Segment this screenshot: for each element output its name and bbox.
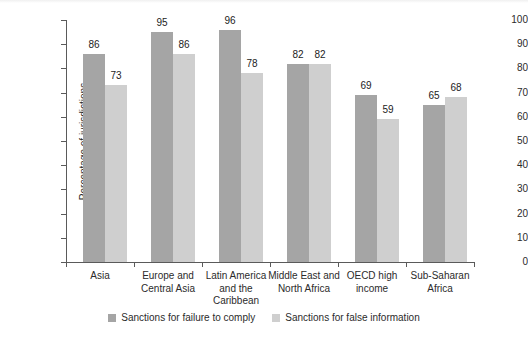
x-category-label-line: Sub-Saharan xyxy=(392,270,488,283)
bar-value-label: 73 xyxy=(100,71,132,81)
bar xyxy=(83,54,105,262)
scan-artifact-line xyxy=(0,0,528,3)
x-tick-mark xyxy=(474,262,475,267)
bar-value-label: 82 xyxy=(304,50,336,60)
bar xyxy=(173,54,195,262)
legend-swatch-icon xyxy=(272,314,280,322)
legend-swatch-icon xyxy=(108,314,116,322)
plot-area: Percentage of jurisdictions 867395869678… xyxy=(66,20,473,262)
y-tick-label: 100 xyxy=(472,15,528,25)
legend-item: Sanctions for false information xyxy=(272,313,420,323)
bar-value-label: 95 xyxy=(146,18,178,28)
x-category-label-line: Africa xyxy=(392,283,488,296)
bar xyxy=(287,64,309,262)
y-tick-label: 60 xyxy=(472,112,528,122)
y-tick-label: 90 xyxy=(472,39,528,49)
y-tick-label: 50 xyxy=(472,136,528,146)
bar xyxy=(423,105,445,262)
bar xyxy=(241,73,263,262)
bar-value-label: 86 xyxy=(78,40,110,50)
x-tick-mark xyxy=(134,262,135,267)
bar xyxy=(151,32,173,262)
y-tick-label: 10 xyxy=(472,233,528,243)
y-tick-label: 40 xyxy=(472,160,528,170)
bar xyxy=(309,64,331,262)
bar-group: 8282 xyxy=(270,20,338,262)
x-tick-mark xyxy=(406,262,407,267)
x-tick-mark xyxy=(66,262,67,267)
y-tick-label: 70 xyxy=(472,88,528,98)
legend-label: Sanctions for failure to comply xyxy=(121,313,255,323)
y-tick-label: 20 xyxy=(472,209,528,219)
bar-group: 6568 xyxy=(406,20,474,262)
legend-label: Sanctions for false information xyxy=(285,313,420,323)
y-tick-label: 30 xyxy=(472,184,528,194)
bar-value-label: 78 xyxy=(236,59,268,69)
bar xyxy=(377,119,399,262)
bar-group: 9586 xyxy=(134,20,202,262)
bar-group: 6959 xyxy=(338,20,406,262)
bar-value-label: 96 xyxy=(214,16,246,26)
chart-legend: Sanctions for failure to complySanctions… xyxy=(0,313,528,323)
x-tick-mark xyxy=(202,262,203,267)
x-tick-mark xyxy=(270,262,271,267)
y-tick-label: 80 xyxy=(472,63,528,73)
bar-group: 9678 xyxy=(202,20,270,262)
legend-item: Sanctions for failure to comply xyxy=(108,313,255,323)
bar xyxy=(445,97,467,262)
x-tick-mark xyxy=(338,262,339,267)
bar-value-label: 69 xyxy=(350,81,382,91)
bar-group: 8673 xyxy=(66,20,134,262)
bar-chart-figure: 0102030405060708090100 Percentage of jur… xyxy=(0,0,528,343)
bar xyxy=(355,95,377,262)
bar-value-label: 68 xyxy=(440,83,472,93)
x-category-label-line: Caribbean xyxy=(188,295,284,308)
bar-value-label: 59 xyxy=(372,105,404,115)
y-tick-label: 0 xyxy=(472,257,528,267)
bar xyxy=(105,85,127,262)
x-category-label: Sub-SaharanAfrica xyxy=(392,270,488,295)
bar-value-label: 86 xyxy=(168,40,200,50)
